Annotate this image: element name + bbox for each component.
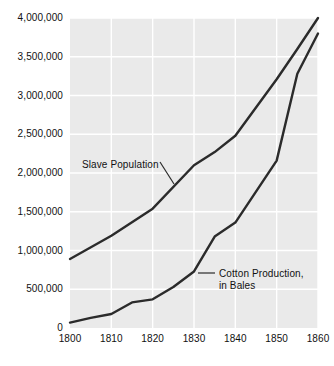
cotton-production-annotation: Cotton Production,in Bales [219, 268, 304, 292]
x-tick-label-2: 1820 [133, 333, 173, 344]
y-tick-label-4: 2,000,000 [0, 167, 63, 178]
x-tick-label-4: 1840 [215, 333, 255, 344]
slave-population-annotation-line-0: Slave Population [82, 159, 159, 171]
y-tick-label-3: 1,500,000 [0, 206, 63, 217]
x-tick-label-3: 1830 [174, 333, 214, 344]
x-tick-label-6: 1860 [298, 333, 334, 344]
y-tick-label-1: 500,000 [0, 283, 63, 294]
y-tick-label-5: 2,500,000 [0, 128, 63, 139]
y-tick-label-0: 0 [0, 322, 63, 333]
x-tick-label-5: 1850 [257, 333, 297, 344]
y-tick-label-8: 4,000,000 [0, 12, 63, 23]
cotton-production-annotation-line-1: in Bales [219, 280, 304, 292]
slave-population-annotation: Slave Population [82, 159, 159, 171]
cotton-production-annotation-line-0: Cotton Production, [219, 268, 304, 280]
y-tick-label-2: 1,000,000 [0, 245, 63, 256]
y-tick-label-6: 3,000,000 [0, 90, 63, 101]
y-tick-label-7: 3,500,000 [0, 51, 63, 62]
x-tick-label-0: 1800 [50, 333, 90, 344]
x-tick-label-1: 1810 [91, 333, 131, 344]
